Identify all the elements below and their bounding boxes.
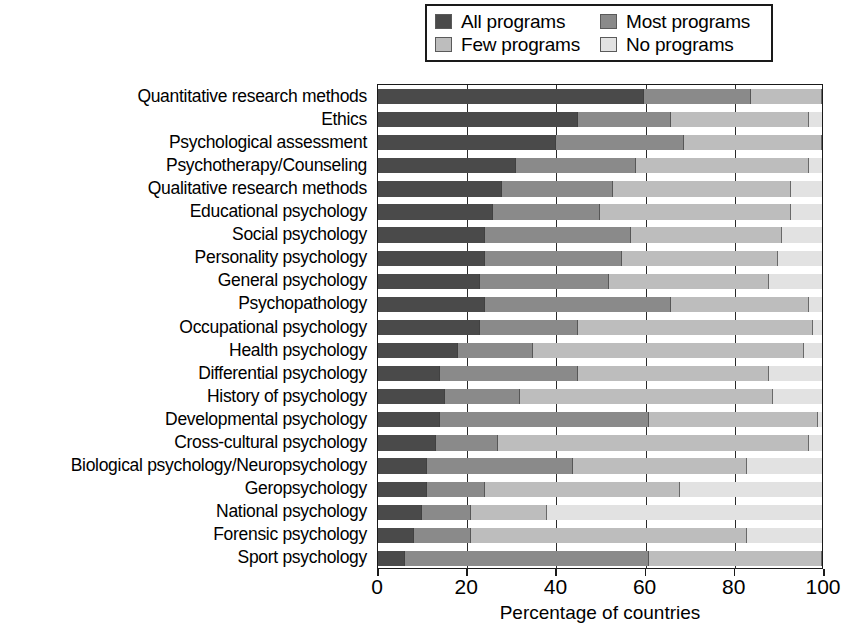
bar-row[interactable]: [378, 204, 822, 219]
bar-row[interactable]: [378, 435, 822, 450]
bar-segment[interactable]: [613, 181, 791, 196]
bar-segment[interactable]: [378, 227, 485, 242]
bar-row[interactable]: [378, 528, 822, 543]
bar-segment[interactable]: [649, 551, 822, 566]
bar-segment[interactable]: [809, 435, 822, 450]
bar-segment[interactable]: [493, 204, 600, 219]
bar-segment[interactable]: [471, 528, 746, 543]
bar-segment[interactable]: [378, 204, 493, 219]
bar-segment[interactable]: [809, 297, 822, 312]
bar-segment[interactable]: [773, 389, 822, 404]
bar-row[interactable]: [378, 412, 822, 427]
bar-segment[interactable]: [578, 112, 671, 127]
bar-segment[interactable]: [622, 251, 777, 266]
bar-segment[interactable]: [378, 389, 445, 404]
bar-segment[interactable]: [405, 551, 649, 566]
bar-row[interactable]: [378, 158, 822, 173]
bar-segment[interactable]: [427, 458, 574, 473]
bar-segment[interactable]: [818, 412, 822, 427]
bar-segment[interactable]: [578, 366, 769, 381]
bar-segment[interactable]: [609, 274, 769, 289]
bar-segment[interactable]: [378, 551, 405, 566]
bar-row[interactable]: [378, 135, 822, 150]
bar-row[interactable]: [378, 505, 822, 520]
bar-segment[interactable]: [533, 343, 804, 358]
bar-row[interactable]: [378, 251, 822, 266]
bar-segment[interactable]: [378, 343, 458, 358]
bar-row[interactable]: [378, 366, 822, 381]
bar-segment[interactable]: [804, 343, 822, 358]
bar-segment[interactable]: [480, 274, 609, 289]
bar-segment[interactable]: [458, 343, 533, 358]
bar-segment[interactable]: [573, 458, 746, 473]
bar-segment[interactable]: [769, 366, 822, 381]
bar-segment[interactable]: [747, 458, 822, 473]
bar-row[interactable]: [378, 343, 822, 358]
bar-row[interactable]: [378, 389, 822, 404]
bar-segment[interactable]: [516, 158, 636, 173]
bar-segment[interactable]: [485, 227, 632, 242]
bar-row[interactable]: [378, 181, 822, 196]
bar-row[interactable]: [378, 458, 822, 473]
bar-segment[interactable]: [440, 366, 578, 381]
bar-segment[interactable]: [769, 274, 822, 289]
bar-segment[interactable]: [680, 482, 822, 497]
bar-segment[interactable]: [547, 505, 822, 520]
bar-segment[interactable]: [378, 412, 440, 427]
bar-segment[interactable]: [378, 89, 644, 104]
bar-row[interactable]: [378, 482, 822, 497]
bar-segment[interactable]: [485, 482, 680, 497]
bar-segment[interactable]: [440, 412, 649, 427]
bar-segment[interactable]: [378, 274, 480, 289]
bar-segment[interactable]: [600, 204, 791, 219]
bar-row[interactable]: [378, 274, 822, 289]
bar-row[interactable]: [378, 227, 822, 242]
bar-segment[interactable]: [671, 112, 809, 127]
bar-segment[interactable]: [422, 505, 471, 520]
bar-row[interactable]: [378, 89, 822, 104]
bar-segment[interactable]: [502, 181, 613, 196]
bar-segment[interactable]: [427, 482, 485, 497]
bar-segment[interactable]: [684, 135, 822, 150]
bar-segment[interactable]: [414, 528, 472, 543]
bar-segment[interactable]: [498, 435, 809, 450]
bar-segment[interactable]: [436, 435, 498, 450]
bar-segment[interactable]: [378, 251, 485, 266]
bar-segment[interactable]: [631, 227, 782, 242]
bar-segment[interactable]: [485, 297, 671, 312]
bar-segment[interactable]: [480, 320, 578, 335]
bar-segment[interactable]: [813, 320, 822, 335]
bar-segment[interactable]: [378, 528, 414, 543]
bar-segment[interactable]: [378, 297, 485, 312]
bar-segment[interactable]: [791, 181, 822, 196]
bar-segment[interactable]: [809, 158, 822, 173]
bar-segment[interactable]: [644, 89, 751, 104]
bar-segment[interactable]: [471, 505, 546, 520]
bar-row[interactable]: [378, 112, 822, 127]
bar-row[interactable]: [378, 551, 822, 566]
bar-segment[interactable]: [520, 389, 773, 404]
bar-segment[interactable]: [378, 320, 480, 335]
bar-segment[interactable]: [378, 158, 516, 173]
bar-segment[interactable]: [485, 251, 623, 266]
bar-segment[interactable]: [778, 251, 822, 266]
bar-segment[interactable]: [378, 482, 427, 497]
bar-segment[interactable]: [791, 204, 822, 219]
bar-segment[interactable]: [378, 366, 440, 381]
bar-segment[interactable]: [445, 389, 520, 404]
bar-segment[interactable]: [378, 112, 578, 127]
bar-segment[interactable]: [671, 297, 809, 312]
bar-segment[interactable]: [378, 458, 427, 473]
bar-segment[interactable]: [378, 135, 556, 150]
bar-row[interactable]: [378, 297, 822, 312]
bar-segment[interactable]: [556, 135, 685, 150]
bar-segment[interactable]: [378, 505, 422, 520]
bar-segment[interactable]: [747, 528, 822, 543]
bar-segment[interactable]: [378, 435, 436, 450]
bar-segment[interactable]: [378, 181, 502, 196]
bar-segment[interactable]: [751, 89, 822, 104]
bar-segment[interactable]: [809, 112, 822, 127]
bar-segment[interactable]: [782, 227, 822, 242]
bar-segment[interactable]: [636, 158, 809, 173]
bar-segment[interactable]: [649, 412, 818, 427]
